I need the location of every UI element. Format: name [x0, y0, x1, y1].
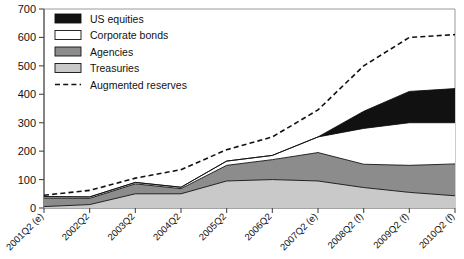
legend-item: US equities: [55, 13, 144, 25]
y-tick-label: 600: [18, 31, 36, 43]
y-tick-label: 400: [18, 88, 36, 100]
legend-item: Corporate bonds: [55, 29, 168, 41]
x-tick-label: 2002Q2: [59, 211, 91, 243]
y-tick-label: 100: [18, 174, 36, 186]
y-tick-label: 700: [18, 3, 36, 15]
legend-item: Augmented reserves: [55, 79, 187, 91]
x-tick-label: 2010Q2 (f): [417, 211, 457, 251]
legend-label: US equities: [90, 13, 144, 25]
stacked-area-chart: 0100200300400500600700 2001Q2 (e)2002Q22…: [0, 0, 464, 259]
x-axis-labels: 2001Q2 (e)2002Q22003Q22004Q22005Q22006Q2…: [4, 211, 457, 253]
legend-swatch-dark-gray: [55, 47, 81, 56]
x-tick-label: 2009Q2 (f): [371, 211, 411, 251]
x-tick-label: 2008Q2 (f): [325, 211, 365, 251]
y-tick-label: 500: [18, 60, 36, 72]
chart-legend: US equitiesCorporate bondsAgenciesTreasu…: [55, 13, 187, 91]
area-series-group: [44, 89, 455, 208]
y-axis-labels: 0100200300400500600700: [18, 3, 36, 214]
y-tick-label: 300: [18, 117, 36, 129]
legend-label: Corporate bonds: [90, 29, 168, 41]
x-tick-label: 2003Q2: [105, 211, 137, 243]
legend-swatch-black: [55, 14, 81, 23]
y-axis-ticks: [39, 9, 44, 208]
legend-item: Treasuries: [55, 62, 139, 74]
legend-label: Agencies: [90, 46, 133, 58]
chart-canvas: 0100200300400500600700 2001Q2 (e)2002Q22…: [0, 0, 464, 259]
x-tick-label: 2006Q2: [242, 211, 274, 243]
x-axis-ticks: [44, 208, 455, 213]
legend-item: Agencies: [55, 46, 133, 58]
x-tick-label: 2001Q2 (e): [4, 211, 46, 253]
x-tick-label: 2007Q2 (e): [278, 211, 320, 253]
x-tick-label: 2005Q2: [196, 211, 228, 243]
legend-swatch-light-gray: [55, 64, 81, 73]
legend-label: Augmented reserves: [90, 79, 187, 91]
legend-swatch-white: [55, 31, 81, 40]
x-tick-label: 2004Q2: [151, 211, 183, 243]
legend-label: Treasuries: [90, 62, 139, 74]
y-tick-label: 200: [18, 145, 36, 157]
